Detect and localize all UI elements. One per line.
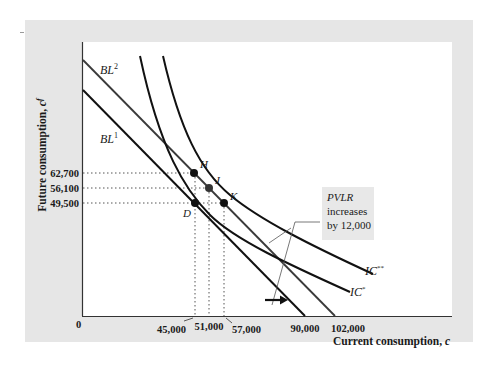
chart-svg: PVLR increases by 12,000 H J K D BL2 BL1… bbox=[0, 0, 497, 369]
x-tick-leader-57000 bbox=[226, 318, 232, 323]
label-h: H bbox=[199, 158, 209, 170]
point-j bbox=[205, 184, 213, 192]
y-tick-49500: 49,500 bbox=[50, 198, 79, 209]
plot-area bbox=[82, 42, 452, 316]
y-tick-56100: 56,100 bbox=[50, 183, 79, 194]
x-tick-102000: 102,000 bbox=[331, 323, 365, 334]
point-k bbox=[220, 199, 228, 207]
y-tick-62700: 62,700 bbox=[50, 168, 79, 179]
label-d: D bbox=[182, 207, 191, 219]
pvlr-note-line3: by 12,000 bbox=[327, 219, 372, 231]
label-k: K bbox=[229, 190, 238, 202]
x-tick-45000: 45,000 bbox=[157, 324, 186, 335]
x-tick-51000: 51,000 bbox=[195, 321, 224, 332]
x-tick-leader-45000 bbox=[184, 318, 193, 321]
x-tick-90000: 90,000 bbox=[291, 323, 320, 334]
pvlr-note-line1: PVLR bbox=[326, 191, 354, 203]
point-d bbox=[191, 199, 199, 207]
pvlr-note-line2: increases bbox=[327, 205, 367, 217]
x-tick-origin: 0 bbox=[76, 319, 81, 330]
y-axis-title: Future consumption, cf bbox=[35, 97, 49, 212]
point-h bbox=[190, 169, 198, 177]
x-axis-title: Current consumption, c bbox=[333, 335, 450, 348]
x-tick-57000: 57,000 bbox=[232, 324, 261, 335]
